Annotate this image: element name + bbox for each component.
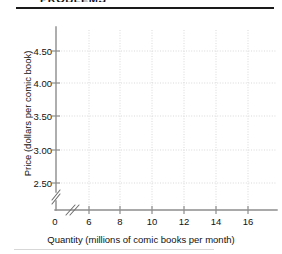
x-axis-title: Quantity (millions of comic books per mo… xyxy=(0,234,282,245)
x-tick-label: 6 xyxy=(77,216,101,227)
bottom-divider-rule xyxy=(14,249,214,250)
axis-lines xyxy=(55,27,277,210)
figure-container: PROBLEMS xyxy=(0,0,282,254)
y-axis-title: Price (dollars per comic book) xyxy=(22,24,33,204)
x-tick-label: 8 xyxy=(108,216,132,227)
x-tick-label: 16 xyxy=(236,216,260,227)
x-tick-label: 14 xyxy=(204,216,228,227)
x-tick-label: 12 xyxy=(172,216,196,227)
gridlines-vertical xyxy=(89,30,248,208)
x-tick-label-origin: 0 xyxy=(43,216,67,227)
x-tick-label: 10 xyxy=(140,216,164,227)
